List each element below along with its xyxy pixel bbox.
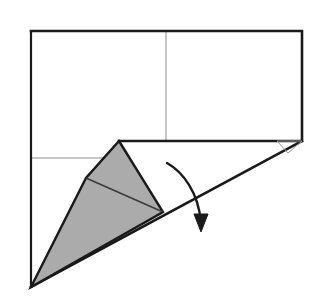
figure-canvas <box>0 0 321 306</box>
paper-folding-figure <box>0 0 321 306</box>
